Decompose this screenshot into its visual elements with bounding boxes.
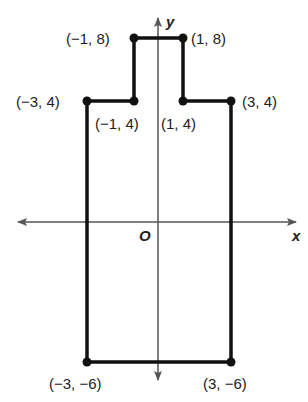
vertex-label: (3, −6) xyxy=(203,376,247,391)
vertex-dot xyxy=(179,97,188,106)
vertex-label: (−1, 8) xyxy=(66,31,110,46)
coordinate-figure xyxy=(0,0,308,402)
vertex-dot xyxy=(83,358,92,367)
vertex-dots xyxy=(83,34,236,367)
vertex-label: (1, 8) xyxy=(191,31,226,46)
x-axis-label: x xyxy=(292,228,300,243)
y-axis-label: y xyxy=(166,14,174,29)
vertex-dot xyxy=(130,97,139,106)
vertex-label: (−3, 4) xyxy=(16,94,60,109)
vertex-label: (−3, −6) xyxy=(49,376,102,391)
vertex-dot xyxy=(83,97,92,106)
polygon xyxy=(87,38,231,362)
vertex-dot xyxy=(179,34,188,43)
vertex-dot xyxy=(227,97,236,106)
origin-label: O xyxy=(139,228,151,243)
vertex-dot xyxy=(130,34,139,43)
vertex-label: (1, 4) xyxy=(161,116,196,131)
vertex-dot xyxy=(227,358,236,367)
vertex-label: (3, 4) xyxy=(242,94,277,109)
vertex-label: (−1, 4) xyxy=(95,116,139,131)
